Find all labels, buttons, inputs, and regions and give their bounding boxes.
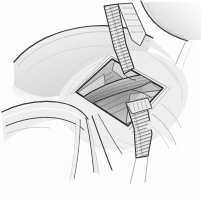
illustration-canvas [0, 0, 201, 199]
edge-vignette [0, 0, 201, 199]
surgical-illustration-figure: Surgical exposure illustration [0, 0, 201, 199]
